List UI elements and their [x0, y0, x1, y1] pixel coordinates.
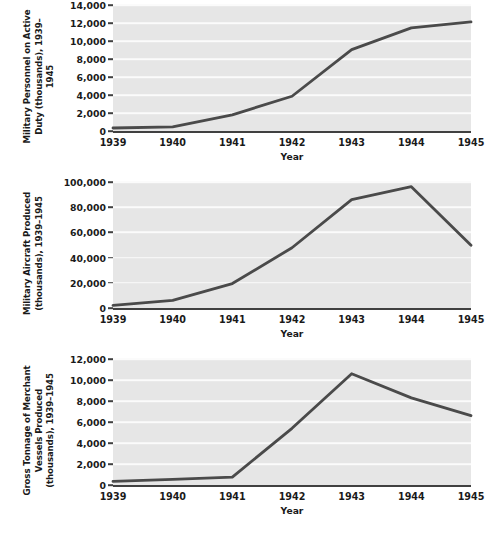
y-axis-tick-label: 40,000	[70, 252, 106, 263]
y-axis-tick-label: 10,000	[70, 36, 106, 47]
y-axis-tick-label: 20,000	[70, 277, 106, 288]
chart-panel-military-personnel: Military Personnel on Active Duty (thous…	[0, 5, 499, 182]
y-axis-tick-label: 0	[100, 303, 106, 314]
data-line-series	[113, 5, 471, 131]
plot-area	[113, 359, 471, 485]
y-axis-tick-label: 2,000	[77, 108, 106, 119]
x-axis-tick-label: 1942	[279, 314, 306, 325]
y-axis-tick-label: 2,000	[77, 459, 106, 470]
x-axis-tick-label: 1941	[219, 137, 246, 148]
x-axis-title: Year	[113, 328, 471, 339]
x-axis-tick-label: 1942	[279, 491, 306, 502]
y-axis-tick-label: 4,000	[77, 90, 106, 101]
x-axis-tick-label: 1939	[100, 137, 127, 148]
y-axis-tick-label: 100,000	[64, 177, 106, 188]
x-axis-line	[113, 485, 471, 487]
series-line	[113, 374, 471, 482]
x-axis-tick-label: 1944	[398, 137, 425, 148]
y-axis-tick-label: 12,000	[70, 354, 106, 365]
chart-panel-merchant-vessels: Gross Tonnage of Merchant Vessels Produc…	[0, 359, 499, 536]
x-axis-tick-label: 1941	[219, 491, 246, 502]
x-axis-tick-label: 1945	[458, 314, 485, 325]
x-axis-tick-label: 1945	[458, 491, 485, 502]
y-axis-tick-label: 4,000	[77, 438, 106, 449]
x-axis-tick-label: 1940	[159, 137, 186, 148]
x-axis-tick-label: 1945	[458, 137, 485, 148]
x-axis-title: Year	[113, 505, 471, 516]
y-axis-tick-label: 12,000	[70, 18, 106, 29]
y-axis-tick-labels: 020,00040,00060,00080,000100,000	[56, 182, 106, 312]
x-axis-tick-labels: 1939194019411942194319441945	[113, 314, 471, 328]
chart-panel-military-aircraft: Military Aircraft Produced (thousands), …	[0, 182, 499, 359]
x-axis-tick-label: 1943	[338, 137, 365, 148]
plot-area	[113, 5, 471, 131]
y-axis-tick-label: 8,000	[77, 396, 106, 407]
x-axis-tick-label: 1944	[398, 491, 425, 502]
series-line	[113, 187, 471, 306]
plot-area	[113, 182, 471, 308]
x-axis-line	[113, 308, 471, 310]
x-axis-tick-label: 1942	[279, 137, 306, 148]
y-axis-tick-label: 60,000	[70, 227, 106, 238]
x-axis-tick-labels: 1939194019411942194319441945	[113, 137, 471, 151]
y-axis-tick-label: 10,000	[70, 375, 106, 386]
y-axis-tick-label: 14,000	[70, 0, 106, 11]
x-axis-tick-label: 1940	[159, 491, 186, 502]
y-axis-tick-label: 0	[100, 480, 106, 491]
x-axis-tick-label: 1944	[398, 314, 425, 325]
y-axis-tick-label: 6,000	[77, 72, 106, 83]
x-axis-title: Year	[113, 151, 471, 162]
y-axis-tick-label: 80,000	[70, 202, 106, 213]
x-axis-tick-labels: 1939194019411942194319441945	[113, 491, 471, 505]
multi-panel-line-chart-figure: Military Personnel on Active Duty (thous…	[0, 0, 499, 542]
x-axis-tick-label: 1939	[100, 314, 127, 325]
y-axis-tick-labels: 02,0004,0006,0008,00010,00012,00014,000	[56, 5, 106, 135]
y-axis-tick-labels: 02,0004,0006,0008,00010,00012,000	[56, 359, 106, 489]
series-line	[113, 22, 471, 128]
x-axis-tick-label: 1941	[219, 314, 246, 325]
x-axis-line	[113, 131, 471, 133]
y-axis-tick-label: 8,000	[77, 54, 106, 65]
y-axis-tick-label: 0	[100, 126, 106, 137]
x-axis-tick-label: 1940	[159, 314, 186, 325]
x-axis-tick-label: 1943	[338, 491, 365, 502]
data-line-series	[113, 182, 471, 308]
x-axis-tick-label: 1939	[100, 491, 127, 502]
data-line-series	[113, 359, 471, 485]
x-axis-tick-label: 1943	[338, 314, 365, 325]
y-axis-tick-label: 6,000	[77, 417, 106, 428]
